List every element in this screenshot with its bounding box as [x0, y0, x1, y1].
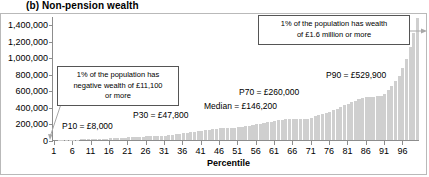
bar — [116, 138, 119, 140]
x-axis-tick-mark — [146, 141, 147, 145]
x-axis-tick-label: 76 — [324, 146, 334, 156]
bar — [317, 115, 320, 140]
bar — [215, 129, 218, 140]
bar — [219, 128, 222, 140]
bar — [200, 131, 203, 140]
bar — [167, 135, 170, 140]
x-axis-tick-mark — [366, 141, 367, 145]
bar — [208, 130, 211, 140]
x-axis-tick-label: 21 — [122, 146, 132, 156]
bar — [145, 136, 148, 140]
leader-arrow-top-callout — [408, 27, 428, 35]
bar — [156, 136, 159, 140]
bar — [237, 127, 240, 140]
bar — [354, 101, 357, 141]
x-axis-tick-mark — [127, 141, 128, 145]
negative-wealth-callout: 1% of the population has negative wealth… — [57, 66, 179, 106]
x-axis-tick-label: 6 — [70, 146, 75, 156]
bar — [182, 133, 185, 140]
x-axis-tick-label: 11 — [86, 146, 95, 156]
bar — [390, 86, 393, 140]
bar — [273, 121, 276, 140]
bar — [409, 47, 412, 140]
bar — [303, 119, 306, 140]
x-axis-tick-mark — [256, 141, 257, 145]
bar — [171, 135, 174, 140]
x-axis-tick-mark — [219, 141, 220, 145]
y-axis-tick-label: 400,000 — [0, 103, 48, 113]
bar — [372, 97, 375, 140]
bar — [94, 139, 97, 140]
callout-line-2: negative wealth of £11,100 — [62, 81, 174, 92]
p30-label: P30 = £47,800 — [133, 110, 189, 120]
bar — [350, 102, 353, 140]
bar — [284, 119, 287, 140]
callout-line-2: of £1.6 million or more — [263, 30, 405, 41]
bar — [138, 137, 141, 140]
bar — [226, 128, 229, 140]
bar — [277, 120, 280, 140]
bar — [401, 68, 404, 140]
x-axis-tick-label: 86 — [361, 146, 371, 156]
callout-line-1: 1% of the population has — [62, 70, 174, 81]
bar — [314, 116, 317, 140]
leader-line-p10 — [48, 104, 62, 140]
y-axis-tick-label: 600,000 — [0, 86, 48, 96]
bar — [405, 59, 408, 140]
bar — [412, 33, 415, 140]
y-axis-tick-label: 1,000,000 — [0, 53, 48, 63]
x-axis-tick-mark — [54, 141, 55, 145]
bar — [288, 119, 291, 140]
x-axis-tick-mark — [402, 141, 403, 145]
x-axis-tick-label: 61 — [269, 146, 279, 156]
bar — [295, 119, 298, 140]
y-axis-tick-mark — [49, 108, 53, 109]
page-title: (b) Non-pension wealth — [26, 0, 139, 11]
x-axis-tick-mark — [292, 141, 293, 145]
x-axis-tick-mark — [274, 141, 275, 145]
x-axis-tick-mark — [311, 141, 312, 145]
bar — [113, 138, 116, 140]
x-axis-tick-label: 1 — [51, 146, 56, 156]
x-axis-tick-mark — [164, 141, 165, 145]
callout-line-3: or more — [62, 91, 174, 102]
bar — [332, 110, 335, 140]
y-axis-tick-mark — [49, 58, 53, 59]
x-axis-tick-mark — [237, 141, 238, 145]
y-axis-tick-label: 0 — [0, 136, 48, 146]
bar — [310, 118, 313, 140]
bar — [83, 139, 86, 140]
x-axis-tick-mark — [201, 141, 202, 145]
bar — [259, 124, 262, 140]
bar — [292, 119, 295, 140]
x-axis-tick-label: 71 — [306, 146, 316, 156]
bar — [299, 119, 302, 140]
y-axis-tick-mark — [49, 124, 53, 125]
p70-label: P70 = £260,000 — [239, 87, 299, 97]
x-axis-tick-mark — [109, 141, 110, 145]
bar — [255, 124, 258, 140]
bar — [343, 105, 346, 140]
x-axis-tick-label: 36 — [177, 146, 187, 156]
y-axis-tick-mark — [49, 91, 53, 92]
bar — [127, 137, 130, 140]
callout-line-1: 1% of the population has wealth — [263, 19, 405, 30]
x-axis-tick-mark — [384, 141, 385, 145]
y-axis-tick-mark — [49, 42, 53, 43]
bar — [87, 139, 90, 140]
bar — [248, 126, 251, 140]
x-axis-tick-mark — [91, 141, 92, 145]
x-axis-tick-label: 81 — [342, 146, 352, 156]
x-axis-tick-label: 41 — [196, 146, 206, 156]
bar — [365, 97, 368, 140]
median-label: Median = £146,200 — [204, 101, 277, 111]
x-axis-tick-label: 56 — [251, 146, 261, 156]
y-axis-tick-mark — [49, 75, 53, 76]
x-axis-tick-label: 26 — [141, 146, 151, 156]
bar — [321, 114, 324, 140]
x-axis-tick-label: 51 — [232, 146, 242, 156]
y-axis-tick-mark — [49, 141, 53, 142]
x-axis-title: Percentile — [207, 158, 250, 168]
bar — [222, 128, 225, 140]
bar — [178, 134, 181, 140]
